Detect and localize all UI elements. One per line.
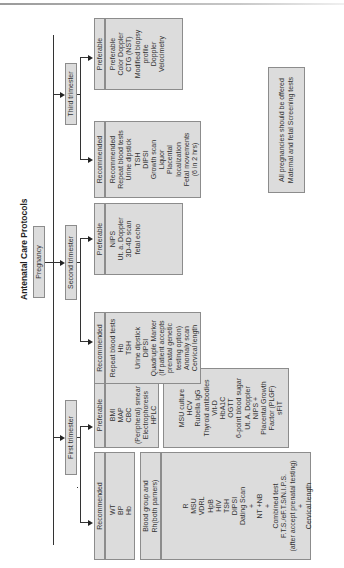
second-branch-line <box>80 239 81 342</box>
list-item: Urine dipstick <box>134 313 142 383</box>
second-rec-arrow-icon <box>88 340 93 346</box>
list-item: (6 in 2 hrs) <box>191 122 199 197</box>
note-line: Maternal and fetal Screening tests <box>287 77 296 183</box>
list-item: TSH <box>134 122 142 197</box>
first-rec-arrow-icon <box>88 521 93 527</box>
list-item: Fetal movements <box>183 122 191 197</box>
blood-group-header-line: Rh(both parners) <box>151 480 159 533</box>
list-item: testing option) <box>175 313 183 383</box>
second-branch-stem <box>77 262 80 263</box>
diagram-title: Antenatal Care Protocols <box>19 198 29 300</box>
first-branch-stem <box>77 437 80 438</box>
list-item: TSH <box>223 453 231 559</box>
list-item: fetal echo <box>134 204 142 274</box>
third-rec-arrow-icon <box>88 158 93 164</box>
list-item: DIPSI <box>142 313 150 383</box>
list-item: prenatal genetic <box>166 313 174 383</box>
list-item: (If patient accepts <box>158 313 166 383</box>
first-trimester-label: First trimester <box>67 416 75 459</box>
blood-group-list: R MSU VDRL HpB HIV TSH DIPSI Dating Scan… <box>161 452 311 560</box>
list-item: + <box>248 453 256 559</box>
list-item: HIV <box>215 453 223 559</box>
list-item: Thyroid antibodies <box>203 369 211 447</box>
main-spine-line <box>53 35 54 545</box>
list-item: Doppler <box>150 19 158 89</box>
list-item: Vit-D <box>211 369 219 447</box>
list-item: WT <box>109 453 117 515</box>
blood-group-header-line: Blood group and <box>142 480 150 531</box>
third-recommended-list: Recommended Repeat blood tests Urine dip… <box>105 121 201 198</box>
list-item: NT +NB <box>256 453 264 559</box>
second-recommended-list: Repeat blood tests Hb TSH Urine dipstick… <box>105 312 201 384</box>
list-item: Placental <box>166 122 174 197</box>
third-trimester-label: Third trimester <box>67 71 75 116</box>
second-recommended-header: Recommended <box>94 312 105 384</box>
list-item: HPLC <box>150 383 158 447</box>
list-item: Cervical length <box>305 453 313 559</box>
list-item: Recommended <box>109 122 117 197</box>
first-preferable-header: Preferable <box>94 382 105 448</box>
list-item: Repeat blood tests <box>109 313 117 383</box>
screening-note-box: All pregnancies should be offered Matern… <box>268 67 305 193</box>
list-item: Ut. a. Doppler <box>117 204 125 274</box>
list-item: DIPSI <box>142 122 150 197</box>
list-item: Hb <box>117 313 125 383</box>
list-item: localization <box>175 122 183 197</box>
list-item: Urine dipstick <box>125 122 133 197</box>
second-preferable-header: Preferable <box>94 203 105 275</box>
list-item: BP <box>117 453 125 515</box>
spine-left-end <box>53 544 54 545</box>
first-preferable-header-text: Preferable <box>96 399 103 431</box>
list-item: DIPSI <box>231 453 239 559</box>
list-item: HpB <box>207 453 215 559</box>
first-bracket-stub <box>77 487 78 488</box>
list-item: VDRL <box>198 453 206 559</box>
first-branch-line <box>80 427 81 523</box>
root-connector <box>45 262 53 263</box>
list-item: sFIT <box>276 369 284 447</box>
pregnancy-box: Pregnancy <box>33 226 45 298</box>
first-trimester-box: First trimester <box>65 400 77 475</box>
list-item: OGTT <box>227 369 235 447</box>
list-item: BMI <box>109 383 117 447</box>
diagram-canvas: Antenatal Care Protocols Pregnancy First… <box>0 0 344 568</box>
list-item: Anomaly scan <box>183 313 191 383</box>
second-trimester-label: Second trimester <box>67 236 75 289</box>
third-preferable-header-text: Preferable <box>96 38 103 70</box>
list-item: + <box>264 453 272 559</box>
second-preferable-list: NIPS Ut. a. Doppler 3D-4D scan fetal ech… <box>105 203 183 275</box>
third-preferable-list: Preferable Color Doppler CTG (NST) Modif… <box>105 18 183 90</box>
list-item: Modified biopsy <box>134 19 142 89</box>
note-line: All pregnancies should be offered <box>278 78 287 182</box>
first-preferable-list: BMI MAP CBC (Peripheral) smear Electroph… <box>105 382 159 448</box>
first-recommended-header: Recommended <box>94 452 105 560</box>
third-preferable-header: Preferable <box>94 18 105 90</box>
list-item: Color Doppler <box>117 19 125 89</box>
list-item: Dating Scan <box>239 453 247 559</box>
third-trimester-box: Third trimester <box>65 63 77 125</box>
list-item: HbA1C <box>219 369 227 447</box>
first-pref-arrow-icon <box>88 425 93 431</box>
list-item: Placental Growth <box>260 369 268 447</box>
list-item: NIPS + <box>252 369 260 447</box>
list-item: Electrophoresis <box>142 383 150 447</box>
list-item: NIPS <box>109 204 117 274</box>
third-recommended-header-text: Recommended <box>96 136 103 183</box>
list-item: profile <box>142 19 150 89</box>
first-recommended-list: WT BP Hb <box>105 452 135 560</box>
first-recommended-header-text: Recommended <box>96 482 103 529</box>
second-preferable-header-text: Preferable <box>96 223 103 255</box>
list-item: Growth scan <box>150 122 158 197</box>
blood-group-header: Blood group and Rh(both parners) <box>140 452 161 560</box>
list-item: F.T.S./eF.T.S/N.I.P.S. <box>280 453 288 559</box>
list-item: Quadruple Marker <box>150 313 158 383</box>
third-recommended-header: Recommended <box>94 121 105 198</box>
third-branch-line <box>80 58 81 160</box>
list-item: MAP <box>117 383 125 447</box>
list-item: 3D-4D scan <box>125 204 133 274</box>
list-item: MSU <box>190 453 198 559</box>
list-item: Combined test <box>272 453 280 559</box>
list-item: Preferable <box>109 19 117 89</box>
second-pref-arrow-icon <box>88 237 93 243</box>
list-item: 6-point blood sugar <box>235 369 243 447</box>
